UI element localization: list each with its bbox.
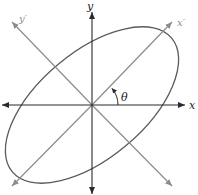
angle-arc: [112, 88, 118, 105]
y-prime-axis-negative: [92, 105, 172, 186]
y-prime-axis: [12, 22, 92, 105]
y-prime-axis-label: y′: [18, 13, 28, 24]
theta-label: θ: [121, 91, 128, 104]
diagram-canvas: y x x′ y′ θ: [0, 0, 198, 195]
y-axis-label: y: [86, 0, 94, 13]
rotated-ellipse-diagram: y x x′ y′ θ: [0, 0, 198, 195]
x-prime-axis: [92, 22, 172, 105]
x-axis-label: x: [189, 99, 196, 112]
x-prime-axis-label: x′: [177, 17, 186, 28]
